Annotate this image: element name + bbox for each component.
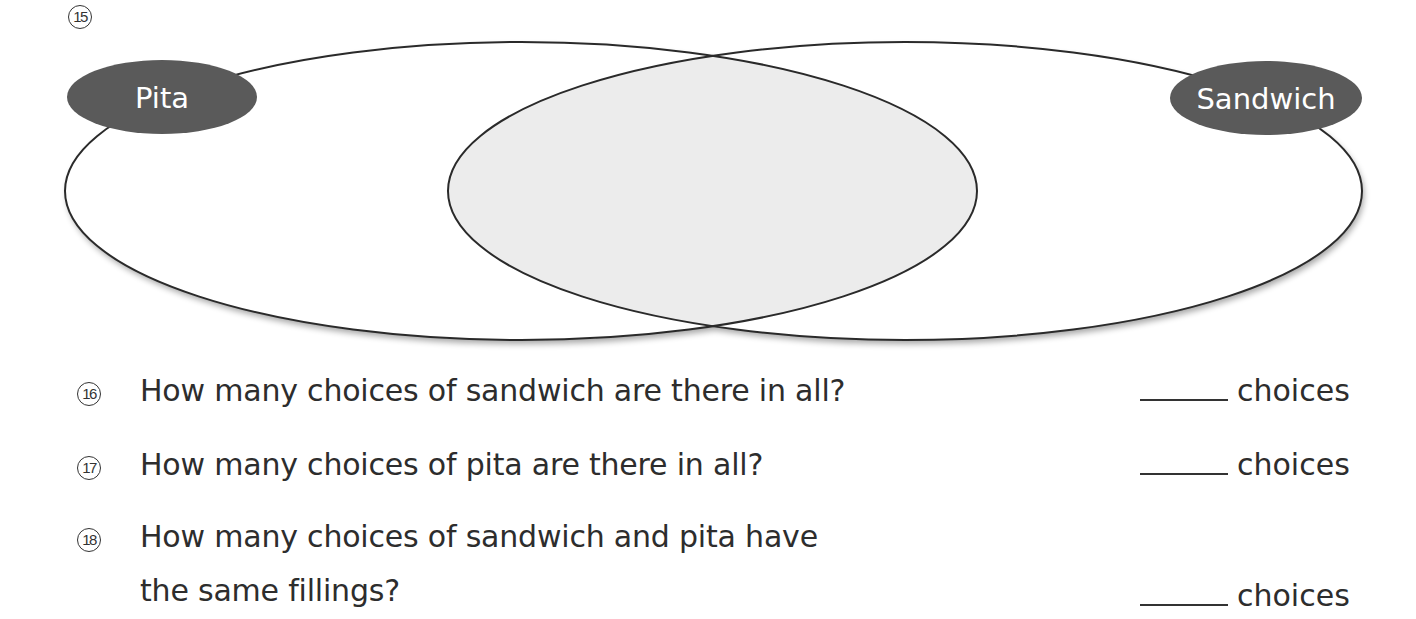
answer-blank-18[interactable] (1140, 603, 1228, 606)
question-number-16: 16 (77, 382, 101, 406)
answer-unit: choices (1237, 447, 1350, 482)
question-18-text-line2: the same fillings? (140, 573, 400, 608)
question-16-text: How many choices of sandwich are there i… (140, 373, 845, 408)
question-18-answer: choices (1140, 578, 1350, 613)
answer-blank-16[interactable] (1140, 398, 1228, 401)
question-18-text-line1: How many choices of sandwich and pita ha… (140, 519, 818, 554)
question-number-17: 17 (77, 456, 101, 480)
question-number-18: 18 (77, 528, 101, 552)
answer-blank-17[interactable] (1140, 472, 1228, 475)
answer-unit: choices (1237, 578, 1350, 613)
question-16-answer: choices (1140, 373, 1350, 408)
sandwich-label: Sandwich (1196, 82, 1335, 116)
venn-diagram: Pita Sandwich (0, 0, 1416, 360)
pita-label-badge: Pita (67, 60, 257, 134)
pita-label: Pita (135, 81, 189, 115)
answer-unit: choices (1237, 373, 1350, 408)
question-17-answer: choices (1140, 447, 1350, 482)
sandwich-label-badge: Sandwich (1170, 61, 1362, 135)
question-17-text: How many choices of pita are there in al… (140, 447, 763, 482)
